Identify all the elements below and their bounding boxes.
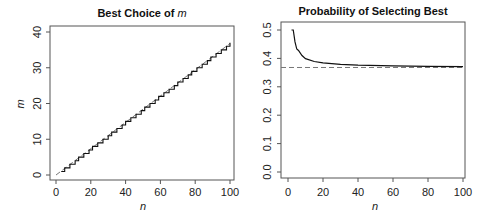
y-tick-label: 20 (31, 97, 43, 109)
y-tick-label: 0 (31, 172, 43, 178)
x-tick-label: 0 (53, 186, 59, 198)
x-tick-label: 40 (119, 186, 131, 198)
y-tick-label: 0.3 (261, 79, 273, 94)
left-title: Best Choice of m (97, 7, 186, 19)
x-tick-label: 20 (85, 186, 97, 198)
y-tick-label: 0.0 (261, 164, 273, 179)
right-plot-frame (281, 22, 465, 178)
x-tick-label: 0 (285, 186, 291, 198)
left-plot-frame (50, 26, 234, 180)
x-tick-label: 80 (422, 186, 434, 198)
y-tick-label: 0.2 (261, 108, 273, 123)
y-tick-label: 0.5 (261, 22, 273, 37)
left-reference-line (56, 43, 230, 175)
x-tick-label: 100 (221, 186, 239, 198)
left-panel: Best Choice of m 010203040 020406080100 … (14, 7, 239, 212)
x-tick-label: 40 (352, 186, 364, 198)
x-tick-label: 80 (189, 186, 201, 198)
x-tick-label: 20 (317, 186, 329, 198)
y-tick-label: 10 (31, 133, 43, 145)
y-tick-label: 40 (31, 26, 43, 38)
left-x-axis: 020406080100 (53, 180, 239, 198)
x-tick-label: 100 (454, 186, 472, 198)
right-probability-line (292, 30, 464, 67)
y-tick-label: 0.1 (261, 136, 273, 151)
left-y-label: m (14, 99, 26, 108)
y-tick-label: 0.4 (261, 51, 273, 66)
y-tick-label: 30 (31, 62, 43, 74)
x-tick-label: 60 (154, 186, 166, 198)
chart-canvas: Best Choice of m 010203040 020406080100 … (0, 0, 486, 217)
left-x-label: n (140, 200, 146, 212)
x-tick-label: 60 (387, 186, 399, 198)
right-title: Probability of Selecting Best (298, 5, 447, 17)
right-y-axis: 0.00.10.20.30.40.5 (261, 22, 281, 179)
right-x-axis: 020406080100 (285, 178, 472, 198)
right-x-label: n (372, 200, 378, 212)
left-y-axis: 010203040 (31, 26, 50, 178)
right-panel: Probability of Selecting Best 0.00.10.20… (261, 5, 472, 212)
